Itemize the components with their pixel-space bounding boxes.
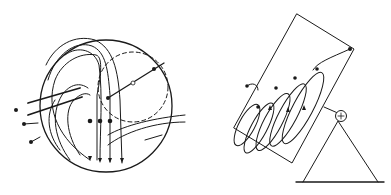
pivot-icon — [336, 111, 347, 122]
tilted-plate — [234, 14, 354, 163]
left-panel-circle-diagram — [0, 0, 200, 195]
spiral-trajectory — [229, 47, 352, 156]
center-point-icon — [131, 81, 135, 85]
figure — [0, 0, 391, 195]
triangular-stand — [303, 121, 378, 182]
outer-circle — [40, 40, 172, 172]
descending-arrows — [88, 119, 124, 163]
incoming-beams — [14, 88, 82, 144]
flow-lines — [46, 38, 185, 163]
dashed-inner-circle — [98, 52, 168, 122]
